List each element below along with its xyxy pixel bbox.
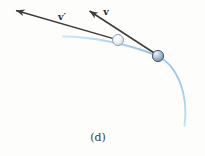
- trajectory-curve: [63, 36, 185, 126]
- figure-canvas: v′ v (d): [0, 0, 205, 156]
- vector-label-v: v: [102, 6, 109, 17]
- particle-later-position: [113, 35, 124, 46]
- velocity-vectors-figure: v′ v (d): [0, 0, 205, 156]
- vector-label-v-prime: v′: [57, 11, 67, 22]
- particle-initial-position: [152, 50, 163, 61]
- figure-caption: (d): [90, 131, 106, 144]
- velocity-vector-v: [90, 11, 156, 54]
